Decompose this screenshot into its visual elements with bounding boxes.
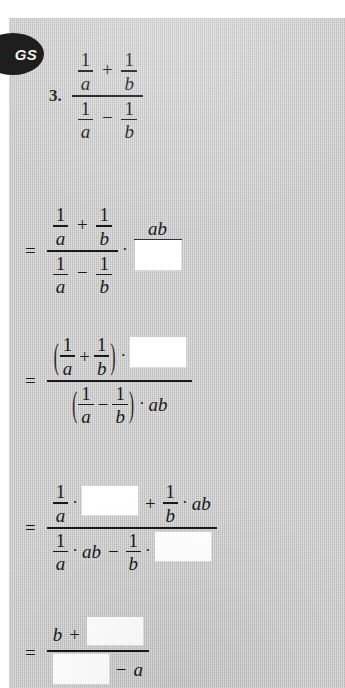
step-1-numerator: 1 a + 1 b xyxy=(72,48,143,95)
worksheet-page: 3. 1 a + 1 b xyxy=(0,0,345,688)
multiplication-dot: · xyxy=(135,395,149,412)
fraction-one-over-a: 1 a xyxy=(60,335,76,378)
step-5-denominator: − a xyxy=(47,652,149,686)
answer-blank-box[interactable] xyxy=(87,617,143,645)
step-2-multiplier-fraction: ab xyxy=(132,219,184,271)
step-4-numerator: 1 a · + 1 b · xyxy=(47,480,217,527)
equals-sign: = xyxy=(25,241,36,260)
answer-blank-box[interactable] xyxy=(155,532,211,561)
step-2-expression: = 1 a + 1 b xyxy=(25,203,184,298)
term-ab: ab xyxy=(149,395,168,414)
paren-open: ( xyxy=(71,386,78,423)
answer-blank-box[interactable] xyxy=(53,654,109,684)
step-4-denominator: 1 a · ab − 1 b · xyxy=(47,529,217,576)
minus-sign: − xyxy=(109,660,134,679)
step-3-complex-fraction: ( 1 a + 1 b ) xyxy=(47,333,192,428)
multiplier-numerator-ab: ab xyxy=(145,219,170,239)
fraction-one-over-b: 1 b xyxy=(126,531,142,574)
step-2-complex-fraction: 1 a + 1 b 1 xyxy=(47,203,118,298)
multiplication-dot: · xyxy=(178,494,192,511)
minus-sign: − xyxy=(101,542,126,561)
step-1-denominator: 1 a − 1 b xyxy=(72,97,143,144)
step-2-numerator: 1 a + 1 b xyxy=(47,203,118,250)
step-5-fraction: b + − a xyxy=(47,618,149,686)
step-1-complex-fraction: 1 a + 1 b 1 xyxy=(72,48,143,143)
fraction-one-over-a: 1 a xyxy=(53,482,69,525)
minus-sign: − xyxy=(94,395,113,414)
gs-badge-label: GS xyxy=(15,46,37,63)
step-3-expression: = ( 1 a + 1 xyxy=(25,333,192,428)
answer-blank-box[interactable] xyxy=(135,240,181,270)
minus-sign: − xyxy=(98,107,117,128)
multiplication-dot: · xyxy=(116,347,130,364)
minus-sign: − xyxy=(73,262,92,283)
multiplication-dot: · xyxy=(118,241,132,258)
step-1-given-expression: 3. 1 a + 1 b xyxy=(49,48,143,143)
step-5-expression: = b + − a xyxy=(25,618,149,686)
fraction-one-over-b: 1 b xyxy=(94,335,110,378)
problem-number: 3. xyxy=(49,87,62,104)
fraction-one-over-b: 1 b xyxy=(112,384,128,427)
fraction-one-over-b: 1 b xyxy=(163,482,179,525)
fraction-one-over-a: 1 a xyxy=(78,384,94,427)
equals-sign: = xyxy=(25,518,36,537)
equals-sign: = xyxy=(25,371,36,390)
multiplication-dot: · xyxy=(68,494,82,511)
fraction-one-over-a: 1 a xyxy=(53,531,69,574)
scanned-worksheet-panel: 3. 1 a + 1 b xyxy=(9,18,345,688)
multiplier-denominator-blank xyxy=(132,240,184,270)
term-a: a xyxy=(133,660,143,679)
paren-open: ( xyxy=(53,338,60,375)
fraction-one-over-a: 1 a xyxy=(78,99,94,142)
step-2-denominator: 1 a − 1 b xyxy=(47,252,118,299)
equals-sign: = xyxy=(25,643,36,662)
fraction-one-over-b: 1 b xyxy=(96,205,112,248)
step-4-expression: = 1 a · + xyxy=(25,480,217,575)
paren-close: ) xyxy=(128,386,135,423)
answer-blank-box[interactable] xyxy=(130,337,186,367)
plus-sign: + xyxy=(138,494,163,513)
fraction-one-over-a: 1 a xyxy=(78,50,94,93)
step-3-denominator: ( 1 a − 1 b ) xyxy=(65,382,173,429)
fraction-one-over-b: 1 b xyxy=(121,99,137,142)
multiplication-dot: · xyxy=(141,542,155,559)
multiplication-dot: · xyxy=(68,542,82,559)
answer-blank-box[interactable] xyxy=(82,486,138,515)
plus-sign: + xyxy=(75,347,94,366)
plus-sign: + xyxy=(73,214,92,235)
plus-sign: + xyxy=(98,59,117,80)
fraction-one-over-b: 1 b xyxy=(96,254,112,297)
step-4-complex-fraction: 1 a · + 1 b · xyxy=(47,480,217,575)
fraction-one-over-b: 1 b xyxy=(121,50,137,93)
term-b: b xyxy=(53,625,63,644)
term-ab: ab xyxy=(192,494,211,513)
term-ab: ab xyxy=(82,542,101,561)
fraction-one-over-a: 1 a xyxy=(53,254,69,297)
step-3-numerator: ( 1 a + 1 b ) xyxy=(47,333,192,380)
step-5-numerator: b + xyxy=(47,618,149,650)
plus-sign: + xyxy=(62,625,87,644)
fraction-one-over-a: 1 a xyxy=(53,205,69,248)
paren-close: ) xyxy=(109,338,116,375)
